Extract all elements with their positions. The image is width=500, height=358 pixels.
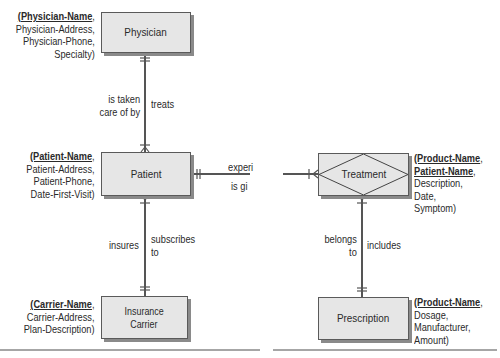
treatment-attr: Date, xyxy=(414,190,483,203)
treatment-key-attr-2: Patient-Name xyxy=(414,165,473,177)
patient-key-attr: (Patient-Name xyxy=(30,150,92,162)
carrier-attr: Plan-Description) xyxy=(24,323,95,336)
physician-attr: Physician-Phone, xyxy=(16,35,95,48)
treatment-key-attr-1: (Product-Name xyxy=(414,152,480,164)
prescription-attr: Dosage, xyxy=(414,309,483,322)
carrier-attr: Carrier-Address, xyxy=(24,311,95,324)
prescription-attributes: (Product-Name, Dosage, Manufacturer, Amo… xyxy=(414,296,483,346)
entity-insurance-carrier[interactable]: InsuranceCarrier xyxy=(101,296,188,339)
physician-attr: Specialty) xyxy=(16,48,95,61)
entity-physician-label: Physician xyxy=(125,26,167,39)
rel-treatment-prescription-right: includes xyxy=(367,239,401,252)
rel-physician-patient-right: treats xyxy=(151,98,174,111)
entity-treatment-label: Treatment xyxy=(341,168,386,181)
patient-attr: Patient-Phone, xyxy=(27,175,95,188)
prescription-attr: Manufacturer, xyxy=(414,321,483,334)
rel-patient-carrier-right: subscribes to xyxy=(151,233,195,258)
prescription-attr: Amount) xyxy=(414,334,483,347)
entity-treatment[interactable]: Treatment xyxy=(318,153,409,196)
patient-attr: Patient-Address, xyxy=(27,163,95,176)
physician-attr: Physician-Address, xyxy=(16,23,95,36)
entity-patient-label: Patient xyxy=(131,168,162,181)
patient-attributes: (Patient-Name, Patient-Address, Patient-… xyxy=(27,150,95,200)
prescription-key-attr: (Product-Name xyxy=(414,296,480,308)
physician-key-attr: (Physician-Name xyxy=(18,10,92,22)
rel-patient-treatment-bottom: is gi xyxy=(231,180,247,193)
carrier-attributes: (Carrier-Name, Carrier-Address, Plan-Des… xyxy=(24,298,95,336)
rel-patient-carrier-left: insures xyxy=(109,239,139,252)
entity-physician[interactable]: Physician xyxy=(101,12,191,53)
rel-treatment-prescription-left: belongs to xyxy=(325,233,357,258)
entity-insurance-carrier-label-2: Carrier xyxy=(131,318,158,331)
rel-patient-treatment-top: experi xyxy=(228,161,253,174)
entity-insurance-carrier-label-1: Insurance xyxy=(125,305,164,318)
treatment-attributes: (Product-Name, Patient-Name, Description… xyxy=(414,152,483,215)
entity-patient[interactable]: Patient xyxy=(101,152,191,196)
patient-attr: Date-First-Visit) xyxy=(27,188,95,201)
treatment-attr: Symptom) xyxy=(414,202,483,215)
carrier-key-attr: (Carrier-Name xyxy=(31,298,93,310)
rel-physician-patient-left: is taken care of by xyxy=(99,93,140,118)
entity-prescription[interactable]: Prescription xyxy=(318,297,409,340)
treatment-attr: Description, xyxy=(414,177,483,190)
physician-attributes: (Physician-Name, Physician-Address, Phys… xyxy=(16,10,95,60)
entity-prescription-label: Prescription xyxy=(337,312,389,325)
